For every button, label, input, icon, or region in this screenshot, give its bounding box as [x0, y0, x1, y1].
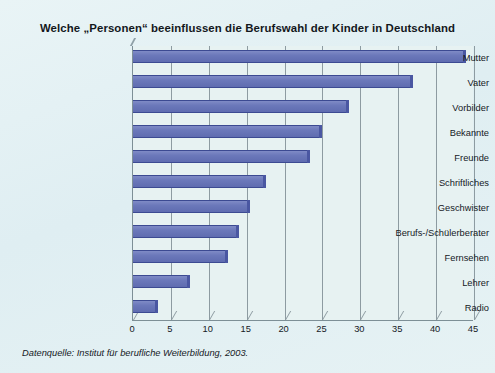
- bar: [133, 225, 239, 238]
- plot-back-wall: [132, 38, 473, 46]
- y-axis-tick-label: Radio: [367, 303, 495, 313]
- y-axis-tick-label: Fernsehen: [367, 253, 495, 263]
- y-axis-tick-label: Geschwister: [367, 203, 495, 213]
- y-axis-tick-label: Vorbilder: [367, 103, 495, 113]
- bar: [133, 175, 266, 188]
- bar: [133, 100, 349, 113]
- y-axis-tick-label: Schriftliches: [367, 178, 495, 188]
- x-axis-tick-label: 40: [430, 324, 440, 334]
- bar: [133, 125, 322, 138]
- x-axis-tick-label: 15: [240, 324, 250, 334]
- data-source-note: Datenquelle: Institut für berufliche Wei…: [22, 348, 248, 358]
- x-axis-tick-label: 30: [354, 324, 364, 334]
- y-axis-tick-label: Mutter: [367, 53, 495, 63]
- x-axis-tick-label: 10: [203, 324, 213, 334]
- y-axis-tick-label: Bekannte: [367, 128, 495, 138]
- y-axis-tick-label: Vater: [367, 78, 495, 88]
- y-axis-tick-label: Berufs-/Schülerberater: [367, 228, 495, 238]
- x-axis-tick-label: 25: [316, 324, 326, 334]
- x-axis-tick-label: 20: [278, 324, 288, 334]
- y-axis-tick-label: Freunde: [367, 153, 495, 163]
- plot-back-wall-edge: [130, 38, 136, 46]
- bar: [133, 300, 158, 313]
- x-axis-tick-label: 5: [167, 324, 172, 334]
- x-axis-tick-label: 45: [468, 324, 478, 334]
- bar: [133, 150, 310, 163]
- bar: [133, 200, 250, 213]
- x-axis-tick-label: 0: [129, 324, 134, 334]
- chart-title: Welche „Personen“ beeinflussen die Beruf…: [0, 22, 495, 34]
- y-axis-tick-label: Lehrer: [367, 278, 495, 288]
- bar: [133, 275, 190, 288]
- bar: [133, 250, 228, 263]
- x-axis-tick-label: 35: [392, 324, 402, 334]
- chart-page: Welche „Personen“ beeinflussen die Beruf…: [0, 0, 495, 373]
